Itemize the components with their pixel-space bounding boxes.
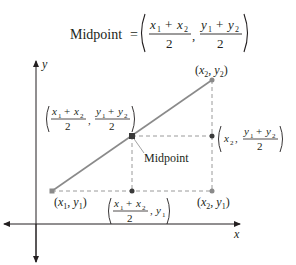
svg-text:2: 2	[65, 120, 71, 132]
formula-equals: =	[130, 27, 138, 42]
svg-text:x: x	[149, 17, 156, 32]
svg-text:2: 2	[217, 36, 224, 51]
svg-text:+: +	[126, 197, 132, 209]
formula-comma: ,	[192, 28, 195, 43]
svg-text:,: ,	[88, 114, 91, 126]
svg-text:2: 2	[127, 212, 133, 224]
svg-text:2: 2	[230, 139, 234, 147]
label-x2-y2: (x2, y2)	[195, 63, 228, 79]
svg-text:x: x	[51, 105, 57, 117]
formula-left-paren	[142, 14, 146, 52]
svg-text:y: y	[95, 105, 101, 117]
svg-text:+: +	[216, 17, 223, 32]
svg-text:1: 1	[208, 25, 212, 34]
point-x2-y1	[210, 189, 215, 194]
svg-text:1: 1	[157, 25, 161, 34]
label-x2-ymid: x 2 , y 1 + y 2 2	[219, 125, 283, 152]
svg-text:y: y	[226, 17, 234, 32]
point-x2-ymid	[210, 134, 215, 139]
svg-text:y: y	[243, 125, 249, 137]
svg-text:,: ,	[235, 132, 238, 144]
svg-text:+: +	[108, 105, 114, 117]
y-axis-label: y	[41, 57, 48, 71]
svg-text:y: y	[199, 17, 207, 32]
svg-text:y: y	[265, 125, 271, 137]
svg-text:x: x	[135, 197, 141, 209]
label-x2-y1: (x2, y1)	[197, 195, 230, 211]
svg-text:2: 2	[184, 25, 188, 34]
midpoint-formula: Midpoint = x 1 + x 2 2 , y 1 + y 2 2	[70, 14, 248, 52]
label-x1-y1: (x1, y1)	[54, 195, 87, 211]
svg-text:x: x	[223, 132, 229, 144]
svg-text:(x1, y1): (x1, y1)	[54, 195, 87, 211]
formula-lhs: Midpoint	[70, 27, 122, 42]
svg-text:,: ,	[150, 204, 153, 216]
point-x1-y1	[50, 189, 55, 194]
x-axis-label: x	[233, 227, 240, 241]
svg-text:x: x	[176, 17, 183, 32]
svg-text:x: x	[73, 105, 79, 117]
formula-right-paren	[244, 14, 248, 52]
midpoint-dot	[129, 133, 135, 139]
formula-y-fraction: y 1 + y 2 2	[199, 17, 242, 51]
svg-text:x: x	[113, 197, 119, 209]
svg-text:+: +	[64, 105, 70, 117]
point-x2-y2	[210, 78, 215, 83]
svg-text:2: 2	[235, 25, 239, 34]
svg-text:+: +	[165, 17, 172, 32]
midpoint-caption: Midpoint	[144, 151, 189, 165]
svg-text:+: +	[256, 125, 262, 137]
svg-text:1: 1	[162, 211, 166, 219]
svg-text:2: 2	[257, 140, 263, 152]
svg-text:(x2, y1): (x2, y1)	[197, 195, 230, 211]
label-midpoint-coordinates: x 1 + x 2 2 , y 1 + y 2 2	[47, 105, 135, 132]
svg-text:(x2, y2): (x2, y2)	[195, 63, 228, 79]
formula-x-fraction: x 1 + x 2 2	[149, 17, 191, 51]
svg-text:y: y	[155, 204, 161, 216]
svg-text:2: 2	[166, 36, 173, 51]
midpoint-diagram: Midpoint = x 1 + x 2 2 , y 1 + y 2 2 y x	[0, 0, 296, 265]
point-xmid-y1	[130, 189, 135, 194]
svg-text:y: y	[117, 105, 123, 117]
label-xmid-y1: x 1 + x 2 2 , y 1	[109, 197, 170, 224]
svg-text:2: 2	[109, 120, 115, 132]
